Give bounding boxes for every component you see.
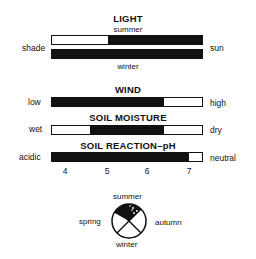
season-wheel-icon	[0, 0, 256, 259]
